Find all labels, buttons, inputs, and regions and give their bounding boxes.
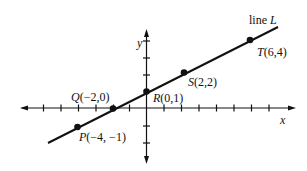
y-axis-up-arrow-icon bbox=[144, 29, 149, 37]
label-P: P(−4, −1) bbox=[78, 130, 126, 144]
x-axis-left-arrow-icon bbox=[20, 106, 28, 111]
label-T: T(6,4) bbox=[257, 45, 287, 59]
x-axis bbox=[20, 105, 296, 112]
y-axis bbox=[143, 29, 150, 164]
y-axis-label: y bbox=[136, 36, 143, 50]
line-L bbox=[48, 27, 278, 143]
point-R bbox=[143, 88, 150, 95]
point-S bbox=[181, 69, 188, 76]
point-Q bbox=[110, 105, 117, 112]
label-S: S(2,2) bbox=[188, 75, 217, 89]
point-T bbox=[247, 37, 254, 44]
y-axis-down-arrow-icon bbox=[144, 156, 149, 164]
x-axis-right-arrow-icon bbox=[288, 106, 296, 111]
x-axis-label: x bbox=[279, 113, 286, 127]
line-label: line L bbox=[249, 13, 277, 27]
label-Q: Q(−2,0) bbox=[71, 90, 109, 104]
label-R: R(0,1) bbox=[152, 91, 183, 105]
coordinate-diagram: line L y x P(−4, −1) Q(−2,0) R(0,1) S(2,… bbox=[0, 0, 307, 171]
